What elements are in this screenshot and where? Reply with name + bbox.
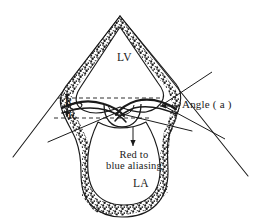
la-chamber-label: LA bbox=[133, 177, 149, 189]
aliasing-label-line1: Red to bbox=[106, 149, 162, 160]
echo-pisa-diagram: LV Angle ( a ) Red to blue aliasing LA R… bbox=[0, 0, 255, 221]
aliasing-label: Red to blue aliasing bbox=[106, 149, 162, 171]
aliasing-label-line2: blue aliasing bbox=[106, 160, 162, 171]
radius-label-lower: R bbox=[68, 110, 76, 122]
radius-label-upper: R bbox=[65, 96, 73, 108]
lv-chamber-label: LV bbox=[117, 51, 132, 63]
angle-label: Angle ( a ) bbox=[182, 99, 232, 111]
